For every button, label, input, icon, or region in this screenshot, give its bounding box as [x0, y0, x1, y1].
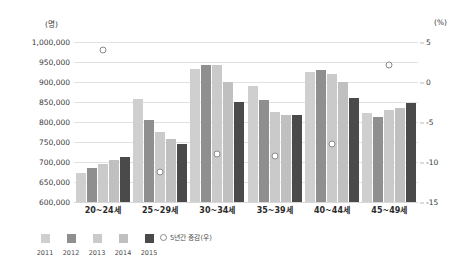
bar-2012 [201, 65, 211, 202]
category-label: 25~29세 [131, 204, 188, 215]
bar-2013 [212, 65, 222, 202]
bar-2012 [373, 117, 383, 202]
bar-2011 [305, 72, 315, 202]
bar-2014 [338, 82, 348, 202]
circle-marker-icon [160, 234, 167, 241]
bar-2012 [316, 70, 326, 202]
bar-group [303, 42, 360, 202]
legend-item-2015: 2015 [136, 228, 162, 257]
bar-group [246, 42, 303, 202]
bar-2011 [190, 69, 200, 202]
category-label: 40~44세 [303, 204, 360, 215]
category-label: 20~24세 [74, 204, 131, 215]
bar-2014 [395, 108, 405, 202]
right-axis-tick-label: -5 [426, 118, 433, 127]
bar-2014 [166, 139, 176, 202]
legend-year-label: 2013 [84, 249, 110, 257]
bar-2013 [327, 74, 337, 202]
legend-marker-label: 5년간 증감(우) [170, 232, 212, 242]
bar-groups [74, 42, 418, 202]
chart-legend: 20112012201320142015 5년간 증감(우) [32, 228, 452, 254]
bar-2012 [144, 120, 154, 202]
legend-swatch-icon [119, 234, 128, 243]
change-marker [214, 151, 221, 158]
bar-2011 [362, 113, 372, 202]
bar-2013 [98, 164, 108, 202]
category-label: 35~39세 [246, 204, 303, 215]
right-axis: -15-10-505 [426, 42, 468, 202]
change-marker [328, 141, 335, 148]
legend-year-label: 2014 [110, 249, 136, 257]
legend-swatch-icon [145, 234, 154, 243]
category-label: 45~49세 [361, 204, 418, 215]
left-axis-tick-label: 950,000 [39, 58, 70, 67]
legend-swatch-icon [93, 234, 102, 243]
bar-2015 [349, 98, 359, 202]
bar-2015 [292, 115, 302, 202]
bar-2012 [259, 100, 269, 202]
right-axis-tick-mark [420, 122, 424, 123]
legend-year-label: 2011 [32, 249, 58, 257]
bar-2014 [109, 160, 119, 202]
right-axis-tick-mark [420, 202, 424, 203]
bar-2011 [76, 173, 86, 202]
right-axis-unit-label: (%) [434, 18, 447, 27]
category-axis-labels: 20~24세25~29세30~34세35~39세40~44세45~49세 [74, 204, 418, 215]
left-axis-tick-label: 900,000 [39, 78, 70, 87]
legend-year-label: 2012 [58, 249, 84, 257]
bar-2011 [133, 99, 143, 202]
left-axis-tick-label: 650,000 [39, 178, 70, 187]
bar-2013 [155, 132, 165, 202]
right-axis-tick-mark [420, 162, 424, 163]
plot-area [74, 42, 418, 202]
left-axis: 600,000650,000700,000750,000800,000850,0… [6, 42, 70, 202]
bar-2012 [87, 168, 97, 202]
bar-2015 [234, 102, 244, 202]
gridline [74, 202, 418, 203]
right-axis-tick-label: -15 [426, 198, 438, 207]
right-axis-tick-mark [420, 42, 424, 43]
left-axis-tick-label: 600,000 [39, 198, 70, 207]
left-axis-tick-label: 700,000 [39, 158, 70, 167]
left-axis-tick-label: 800,000 [39, 118, 70, 127]
bar-chart: (명) (%) 600,000650,000700,000750,000800,… [0, 0, 470, 258]
bar-2013 [384, 110, 394, 202]
bar-2014 [281, 115, 291, 202]
change-marker [386, 62, 393, 69]
bar-group [74, 42, 131, 202]
bar-2015 [120, 157, 130, 202]
change-marker [271, 152, 278, 159]
bar-group [361, 42, 418, 202]
bar-group [189, 42, 246, 202]
left-axis-unit-label: (명) [45, 18, 58, 29]
right-axis-tick-label: -10 [426, 158, 438, 167]
right-axis-tick-mark [420, 82, 424, 83]
legend-swatch-icon [67, 234, 76, 243]
legend-swatch-icon [41, 234, 50, 243]
legend-item-2014: 2014 [110, 228, 136, 257]
right-axis-tick-label: 0 [426, 78, 431, 87]
change-marker [99, 47, 106, 54]
bar-2014 [223, 82, 233, 202]
legend-item-2013: 2013 [84, 228, 110, 257]
legend-year-swatches: 20112012201320142015 [32, 228, 162, 257]
right-axis-tick-label: 5 [426, 38, 431, 47]
category-label: 30~34세 [189, 204, 246, 215]
bar-2015 [177, 144, 187, 202]
legend-change-marker: 5년간 증감(우) [160, 232, 212, 242]
bar-group [131, 42, 188, 202]
left-axis-tick-label: 850,000 [39, 98, 70, 107]
left-axis-tick-label: 1,000,000 [32, 38, 70, 47]
bar-2011 [248, 86, 258, 202]
legend-item-2011: 2011 [32, 228, 58, 257]
legend-year-label: 2015 [136, 249, 162, 257]
change-marker [156, 168, 163, 175]
left-axis-tick-label: 750,000 [39, 138, 70, 147]
bar-2015 [406, 103, 416, 202]
legend-item-2012: 2012 [58, 228, 84, 257]
